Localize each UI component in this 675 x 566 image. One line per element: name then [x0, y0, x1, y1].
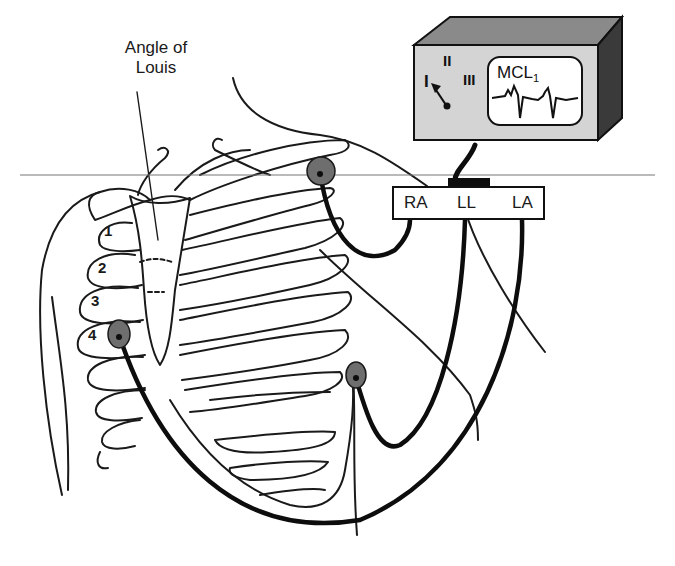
- angle-label-line2: Louis: [116, 58, 196, 78]
- sternum: [130, 196, 190, 365]
- mcl-text: MCL: [497, 63, 533, 82]
- rib-label-2: 2: [98, 259, 106, 276]
- screen-label: MCL1: [497, 63, 539, 84]
- mcl-subscript: 1: [533, 72, 539, 84]
- body-outline-right: [353, 370, 357, 535]
- rib-label-3: 3: [91, 292, 99, 309]
- lead-label-ra: RA: [404, 193, 428, 213]
- lead-label-la: LA: [512, 193, 533, 213]
- monitor-top: [414, 17, 622, 45]
- ra-electrode: [307, 157, 335, 185]
- lead-III-label: III: [463, 71, 476, 88]
- lead-II-label: II: [443, 52, 451, 69]
- selector-knob: [444, 103, 451, 110]
- anatomy-illustration: [0, 0, 675, 566]
- angle-of-louis-label: Angle of Louis: [116, 38, 196, 78]
- ecg-electrode-diagram: Angle of Louis 1 2 3 4 I II III MCL1 RA …: [0, 0, 675, 566]
- rib-label-4: 4: [88, 326, 96, 343]
- angle-label-line1: Angle of: [116, 38, 196, 58]
- body-outline-left: [40, 192, 100, 495]
- lead-junction-box: RA LL LA: [392, 186, 545, 220]
- lead-label-ll: LL: [457, 193, 476, 213]
- lead-I-label: I: [424, 72, 429, 92]
- rib-label-1: 1: [104, 222, 112, 239]
